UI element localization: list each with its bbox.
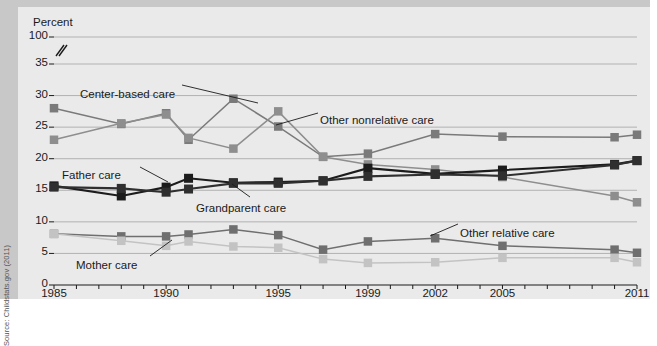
y-tick-label: 20 [22, 151, 48, 163]
series-marker [229, 242, 238, 251]
series-marker [610, 133, 619, 142]
series-marker [274, 231, 283, 240]
series-marker [274, 243, 283, 252]
x-tick-label: 2002 [413, 287, 457, 299]
series-annotation: Other relative care [460, 227, 555, 239]
series-marker [50, 104, 59, 113]
series-marker [184, 134, 193, 143]
series-marker [610, 192, 619, 201]
series-annotation: Father care [62, 169, 121, 181]
series-marker [610, 245, 619, 254]
x-tick-label: 2011 [615, 287, 657, 299]
x-tick-label: 2005 [480, 287, 524, 299]
series-marker [162, 110, 171, 119]
series-marker [364, 237, 373, 246]
series-marker [610, 161, 619, 170]
series-marker [633, 198, 642, 207]
y-tick-label: 35 [22, 56, 48, 68]
y-tick-label: 100 [22, 29, 48, 41]
series-marker [633, 258, 642, 267]
series-marker [184, 237, 193, 246]
series-marker [162, 242, 171, 251]
series-line [54, 161, 637, 193]
series-annotation: Other nonrelative care [320, 114, 434, 126]
series-marker [117, 119, 126, 128]
annotation-leader [140, 167, 168, 182]
series-line [54, 99, 637, 157]
series-marker [274, 107, 283, 116]
y-tick-label: 10 [22, 214, 48, 226]
series-marker [431, 258, 440, 267]
series-marker [229, 225, 238, 234]
y-tick-label: 25 [22, 119, 48, 131]
series-marker [162, 188, 171, 197]
series-marker [498, 254, 507, 263]
series-marker [229, 179, 238, 188]
series-marker [363, 172, 372, 181]
series-marker [319, 245, 328, 254]
series-marker [319, 255, 328, 264]
x-tick-label: 1995 [256, 287, 300, 299]
series-marker [431, 170, 440, 179]
series-annotation: Mother care [76, 259, 137, 271]
x-tick-label: 1990 [144, 287, 188, 299]
series-marker [229, 144, 238, 153]
series-marker [610, 254, 619, 263]
series-marker [319, 176, 328, 185]
series-marker [50, 230, 59, 239]
series-marker [50, 136, 59, 145]
series-marker [229, 94, 238, 103]
series-marker [498, 171, 507, 180]
series-annotation: Center-based care [80, 88, 175, 100]
series-marker [274, 179, 283, 188]
series-marker [498, 132, 507, 141]
series-marker [364, 149, 373, 158]
annotation-leader [182, 85, 258, 103]
y-tick-label: 15 [22, 182, 48, 194]
series-marker [117, 184, 126, 193]
series-marker [498, 242, 507, 251]
series-marker [364, 259, 373, 268]
x-tick-label: 1985 [32, 287, 76, 299]
series-marker [633, 156, 642, 165]
x-tick-label: 1999 [346, 287, 390, 299]
y-tick-label: 5 [22, 245, 48, 257]
series-marker [184, 174, 193, 183]
series-marker [431, 130, 440, 139]
series-marker [633, 130, 642, 139]
annotation-leader [430, 224, 458, 236]
series-annotation: Grandparent care [196, 202, 286, 214]
series-marker [117, 237, 126, 246]
series-marker [50, 183, 59, 192]
series-marker [633, 249, 642, 258]
y-tick-label: 30 [22, 88, 48, 100]
series-marker [363, 164, 372, 173]
series-marker [184, 185, 193, 194]
series-marker [319, 153, 328, 162]
series-marker [162, 232, 171, 241]
